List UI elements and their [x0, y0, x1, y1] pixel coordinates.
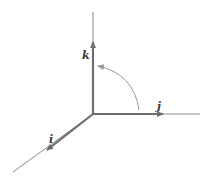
coordinate-axes-diagram: k j i	[0, 0, 210, 180]
j-label: j	[155, 100, 161, 113]
unit-vectors	[47, 42, 163, 150]
rotation-arc-arrow	[98, 66, 139, 110]
axes	[13, 12, 200, 172]
k-label: k	[82, 49, 90, 62]
i-vector-arrow	[47, 114, 93, 150]
i-label: i	[49, 133, 53, 146]
